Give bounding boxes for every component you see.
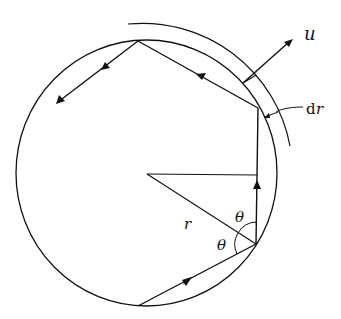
outer-shell-arc — [128, 23, 290, 146]
shell-tick — [243, 75, 256, 83]
chord-bottom — [138, 244, 256, 306]
main-circle — [16, 40, 277, 306]
arrowhead-right-chord — [253, 180, 261, 189]
reflection-diagram: u d r r θ θ — [0, 0, 341, 319]
arrowhead-top-chord — [196, 73, 206, 80]
horizontal-line — [147, 174, 257, 175]
label-radius-r: r — [184, 215, 192, 233]
velocity-arrow-shaft — [243, 42, 289, 83]
chord-right — [256, 108, 258, 244]
angle-arc-lower — [235, 233, 238, 254]
dr-leader — [276, 107, 303, 112]
arrowhead-bottom-chord-fill — [182, 277, 192, 286]
arrowhead-top-left-chord-end — [56, 95, 65, 104]
label-angle-lower: θ — [217, 236, 226, 254]
label-dr-r: r — [316, 100, 324, 118]
label-angle-upper: θ — [235, 208, 244, 226]
label-velocity-u: u — [304, 23, 316, 44]
label-dr-d: d — [306, 100, 316, 118]
